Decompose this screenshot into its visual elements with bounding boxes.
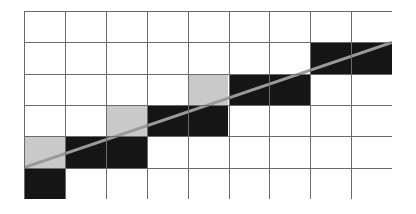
- grid-lines-layer: [24, 11, 392, 199]
- diagram-canvas: [0, 0, 416, 214]
- raster-grid: [24, 11, 392, 199]
